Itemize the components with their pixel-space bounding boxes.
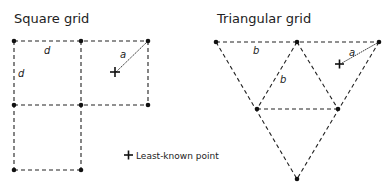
label-d-vertical: d	[18, 68, 25, 79]
square-grid-title: Square grid	[14, 11, 89, 26]
legend-label: Least-known point	[136, 151, 219, 161]
label-a: a	[349, 47, 355, 58]
triangular-grid: Triangular grid b b a	[214, 11, 382, 181]
triangular-grid-title: Triangular grid	[216, 11, 311, 26]
label-b-diagonal: b	[280, 74, 286, 85]
legend: Least-known point	[124, 151, 219, 161]
label-a: a	[120, 49, 126, 60]
square-grid: Square grid d d a	[12, 11, 151, 172]
label-d-horizontal: d	[44, 45, 51, 56]
label-b-horizontal: b	[253, 45, 259, 56]
grid-diagram: Square grid d d a Triangular grid	[0, 0, 390, 188]
